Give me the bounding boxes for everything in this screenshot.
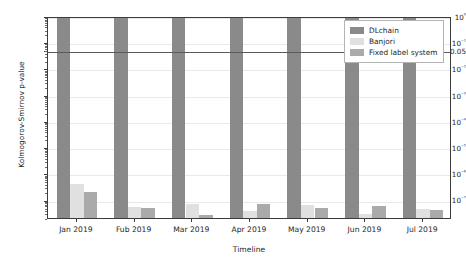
gridline <box>48 149 450 150</box>
chart-figure: Kolmogorov-Smirnov p-value 10⁰10⁻¹0.0510… <box>0 0 466 261</box>
y-axis-minor-tick <box>45 219 47 220</box>
x-axis-tick-mark <box>422 219 423 222</box>
legend-label: Fixed label system <box>369 49 437 56</box>
bar <box>243 211 257 218</box>
gridline <box>48 97 450 98</box>
bar <box>315 208 329 218</box>
bar <box>172 17 186 218</box>
gridline <box>48 202 450 203</box>
bar <box>287 17 301 218</box>
bar <box>372 206 386 218</box>
x-axis-label: Timeline <box>47 245 451 254</box>
bar <box>114 17 128 218</box>
legend-item: Fixed label system <box>350 47 437 58</box>
bar <box>257 204 271 218</box>
bar <box>70 184 84 218</box>
x-axis-tick-mark <box>134 219 135 222</box>
gridline <box>48 70 450 71</box>
legend-swatch <box>350 49 364 56</box>
gridline <box>48 18 450 19</box>
bar <box>416 209 430 218</box>
x-axis-tick-mark <box>191 219 192 222</box>
x-axis-tick-label: Jul 2019 <box>384 225 460 234</box>
bar <box>141 208 155 218</box>
x-axis-tick-mark <box>307 219 308 222</box>
legend-swatch <box>350 27 364 34</box>
bar <box>128 207 142 218</box>
bar <box>230 17 244 218</box>
y-axis-label: Kolmogorov-Smirnov p-value <box>17 20 26 210</box>
bar <box>301 205 315 218</box>
chart-legend: DLchainBanjoriFixed label system <box>344 20 444 63</box>
gridline <box>48 175 450 176</box>
bar <box>199 215 213 218</box>
legend-item: DLchain <box>350 25 437 36</box>
legend-label: Banjori <box>369 38 395 45</box>
bar <box>57 17 71 218</box>
x-axis-tick-mark <box>364 219 365 222</box>
legend-swatch <box>350 38 364 45</box>
legend-item: Banjori <box>350 36 437 47</box>
legend-label: DLchain <box>369 27 399 34</box>
bar <box>84 192 98 218</box>
x-axis-tick-mark <box>249 219 250 222</box>
x-axis-tick-mark <box>76 219 77 222</box>
bar <box>186 204 200 218</box>
gridline <box>48 123 450 124</box>
bar <box>359 214 373 218</box>
bar <box>430 210 444 218</box>
